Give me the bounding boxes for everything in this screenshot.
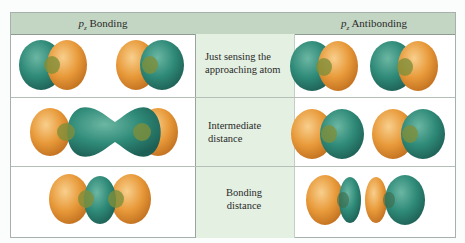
antibonding-row3-sigma-star	[306, 175, 425, 225]
antibonding-row1-atom-left	[290, 41, 358, 91]
bonding-row3-sigma	[49, 174, 151, 224]
antibonding-row2-atom-right	[372, 109, 445, 159]
bonding-row2-merged	[30, 107, 178, 156]
antibonding-row1-atom-right	[370, 41, 438, 91]
bonding-row1-atom-left	[19, 40, 87, 90]
antibonding-row2-atom-left	[291, 109, 364, 159]
orbital-drawings	[0, 0, 465, 243]
bonding-row1-atom-right	[116, 40, 184, 90]
